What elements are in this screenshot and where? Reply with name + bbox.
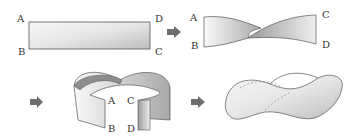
label-b-step3: B — [108, 124, 115, 134]
label-d-step1: D — [155, 14, 163, 24]
flat-strip — [29, 22, 150, 49]
label-d-step2: D — [322, 40, 330, 50]
label-a-step1: A — [17, 14, 24, 24]
label-a-step3: A — [108, 96, 115, 106]
ends-together-strip — [74, 72, 170, 130]
arrow-icon — [191, 96, 205, 108]
label-c-step3: C — [127, 96, 135, 106]
arrow-icon — [30, 96, 43, 108]
label-c-step2: C — [322, 10, 330, 20]
label-b-step2: B — [191, 41, 198, 51]
half-twist-strip — [204, 15, 316, 47]
label-c-step1: C — [155, 47, 163, 57]
arrow-icon — [167, 26, 181, 38]
mobius-strip — [225, 73, 342, 119]
mobius-diagram — [0, 0, 362, 140]
label-a-step2: A — [190, 13, 197, 23]
label-b-step1: B — [18, 47, 25, 57]
label-d-step3: D — [127, 124, 135, 134]
